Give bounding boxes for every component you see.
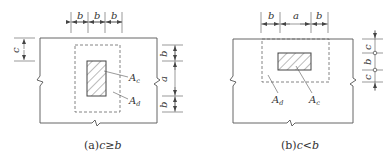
right-dim-a-2: a xyxy=(158,76,169,82)
top-dim-a-2: b xyxy=(94,10,100,21)
diagram-canvas: Ac Ad b b b c xyxy=(0,0,392,162)
diagram-b: Ad Ac b a b xyxy=(230,10,383,152)
column-ac-a xyxy=(87,61,106,96)
label-ac-a: Ac xyxy=(128,72,140,85)
top-dim-b-2: a xyxy=(293,10,299,21)
diagram-a: Ac Ad b b b c xyxy=(10,10,183,152)
right-dim-b-1: c xyxy=(362,44,373,50)
top-dim-b-3: b xyxy=(316,10,322,21)
left-dim-a: c xyxy=(10,47,21,53)
right-dim-a-1: b xyxy=(158,51,169,57)
caption-b: (b)c<b xyxy=(281,139,319,152)
top-dim-b-1: b xyxy=(268,10,274,21)
caption-a: (a)c≥b xyxy=(84,139,122,152)
right-dim-b-2: b xyxy=(362,59,373,65)
top-dim-a-3: b xyxy=(111,10,117,21)
label-ac-b: Ac xyxy=(308,94,320,107)
label-ad-a: Ad xyxy=(128,95,140,108)
label-ad-b: Ad xyxy=(271,94,283,107)
column-ac-b xyxy=(278,53,311,70)
slab-outline-b xyxy=(230,39,356,126)
right-dim-a-3: b xyxy=(158,102,169,108)
top-dim-a-1: b xyxy=(77,10,83,21)
right-dim-b-3: c xyxy=(362,74,373,80)
